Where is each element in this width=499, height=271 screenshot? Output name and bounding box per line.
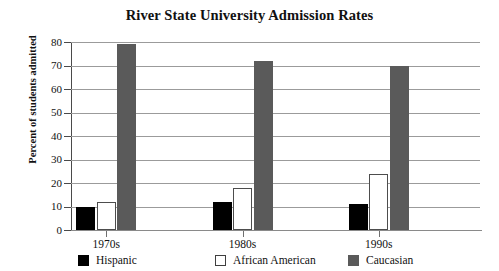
bar-african-american-1980s bbox=[233, 188, 252, 230]
y-tick-label: 80 bbox=[22, 37, 62, 48]
y-tick-mark bbox=[64, 207, 71, 208]
y-tick-label: 40 bbox=[22, 131, 62, 142]
legend-swatch-icon bbox=[215, 255, 226, 266]
y-tick-label: 60 bbox=[22, 84, 62, 95]
y-tick-mark bbox=[64, 183, 71, 184]
x-tick-mark bbox=[106, 231, 107, 237]
bar-caucasian-1980s bbox=[254, 61, 273, 230]
x-tick-label-1970s: 1970s bbox=[61, 238, 151, 250]
plot-area bbox=[71, 42, 480, 230]
y-tick-mark bbox=[64, 89, 71, 90]
legend-item-caucasian[interactable]: Caucasian bbox=[348, 254, 413, 266]
chart-title: River State University Admission Rates bbox=[0, 7, 499, 24]
legend-label: Caucasian bbox=[366, 254, 413, 266]
x-tick-label-1980s: 1980s bbox=[198, 238, 288, 250]
y-tick-label: 30 bbox=[22, 154, 62, 165]
bar-hispanic-1980s bbox=[213, 202, 232, 230]
y-tick-mark bbox=[64, 160, 71, 161]
y-tick-label: 50 bbox=[22, 107, 62, 118]
bar-caucasian-1990s bbox=[390, 66, 409, 231]
legend-label: Hispanic bbox=[96, 254, 137, 266]
chart-container: River State University Admission Rates P… bbox=[0, 0, 499, 271]
bar-hispanic-1990s bbox=[349, 204, 368, 230]
y-tick-mark bbox=[64, 42, 71, 43]
y-axis-title: Percent of students admitted bbox=[27, 5, 38, 195]
y-tick-label: 20 bbox=[22, 178, 62, 189]
y-tick-label: 70 bbox=[22, 60, 62, 71]
y-tick-label: 10 bbox=[22, 201, 62, 212]
x-tick-label-1990s: 1990s bbox=[334, 238, 424, 250]
bar-hispanic-1970s bbox=[76, 207, 95, 231]
y-tick-mark bbox=[64, 66, 71, 67]
chart-legend: HispanicAfrican AmericanCaucasian bbox=[0, 254, 499, 271]
x-tick-mark bbox=[243, 231, 244, 237]
x-tick-mark bbox=[379, 231, 380, 237]
legend-swatch-icon bbox=[348, 255, 359, 266]
legend-item-african-american[interactable]: African American bbox=[215, 254, 316, 266]
x-axis-line bbox=[71, 230, 482, 231]
gridline bbox=[71, 42, 480, 43]
legend-item-hispanic[interactable]: Hispanic bbox=[78, 254, 137, 266]
legend-swatch-icon bbox=[78, 255, 89, 266]
y-tick-mark bbox=[64, 230, 71, 231]
bar-caucasian-1970s bbox=[117, 44, 136, 230]
y-tick-label: 0 bbox=[22, 225, 62, 236]
y-tick-mark bbox=[64, 136, 71, 137]
legend-label: African American bbox=[233, 254, 316, 266]
bar-african-american-1990s bbox=[369, 174, 388, 230]
y-tick-mark bbox=[64, 113, 71, 114]
bar-african-american-1970s bbox=[97, 202, 116, 230]
